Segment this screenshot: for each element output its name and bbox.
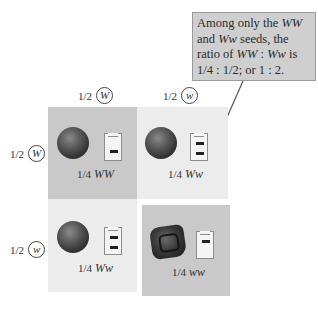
gel-band [196, 142, 204, 145]
allele-circle-icon: w [181, 87, 198, 104]
punnett-cell-ww: 1/4 ww [142, 205, 230, 296]
cell-label: 1/4 Ww [168, 167, 203, 182]
round-seed-icon [57, 127, 89, 159]
column-header-w: 1/2w [163, 87, 198, 104]
punnett-cell-WW: 1/4 WW [48, 107, 137, 199]
round-seed-icon [145, 127, 177, 159]
allele-circle-icon: w [28, 241, 45, 258]
gel-tube-icon [190, 133, 208, 161]
row-header-w: 1/2w [10, 241, 45, 258]
row-header-W: 1/2W [10, 145, 45, 162]
gel-band [110, 246, 118, 249]
gel-band [196, 152, 204, 155]
punnett-cell-Ww-top: 1/4 Ww [137, 107, 228, 199]
gel-band [110, 236, 118, 239]
cell-label: 1/4 WW [77, 167, 114, 182]
gel-band [110, 150, 118, 153]
column-header-W: 1/2W [78, 87, 113, 104]
cell-label: 1/4 ww [172, 265, 205, 280]
punnett-cell-Ww-bottom: 1/4 Ww [48, 199, 137, 292]
gel-tube-icon [104, 227, 122, 255]
cell-label: 1/4 Ww [78, 261, 113, 276]
gel-tube-icon [196, 231, 214, 259]
allele-circle-icon: W [96, 87, 113, 104]
allele-circle-icon: W [28, 145, 45, 162]
wrinkled-seed-icon [149, 224, 187, 260]
gel-tube-icon [104, 133, 122, 161]
round-seed-icon [57, 221, 89, 253]
gel-band [202, 240, 210, 243]
